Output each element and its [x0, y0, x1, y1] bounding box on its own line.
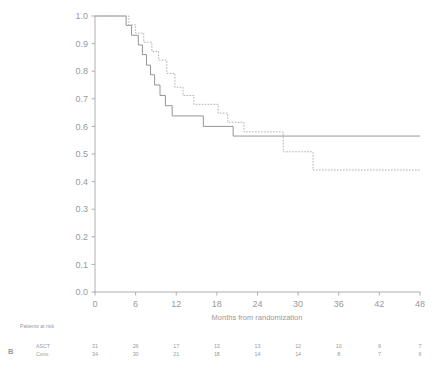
risk-count: 12: [295, 343, 301, 349]
risk-count: 9: [378, 343, 381, 349]
risk-count: 14: [295, 351, 301, 357]
risk-count: 21: [173, 351, 179, 357]
x-tick-label: 0: [92, 299, 97, 309]
y-tick-label: 0.6: [75, 122, 88, 132]
survival-curve-conv: [95, 16, 420, 170]
x-axis-title: Months from randomization: [212, 313, 303, 322]
y-tick-label: 1.0: [75, 11, 88, 21]
x-axis-ticks: [95, 292, 420, 296]
x-tick-label: 36: [334, 299, 344, 309]
risk-count: 26: [133, 343, 139, 349]
x-tick-label: 18: [212, 299, 222, 309]
x-tick-label: 48: [415, 299, 425, 309]
risk-count: 13: [255, 343, 261, 349]
risk-count: 14: [255, 351, 261, 357]
y-tick-label: 0.1: [75, 260, 88, 270]
risk-count: 10: [336, 343, 342, 349]
x-tick-label: 12: [171, 299, 181, 309]
risk-row-label: Conv.: [36, 351, 49, 357]
y-axis-ticks: [92, 16, 96, 292]
risk-count: 7: [378, 351, 381, 357]
y-tick-label: 0.0: [75, 287, 88, 297]
y-tick-label: 0.7: [75, 94, 88, 104]
y-axis-tick-labels: 0.00.10.20.30.40.50.60.70.80.91.0: [75, 11, 88, 297]
y-tick-label: 0.9: [75, 39, 88, 49]
x-tick-label: 30: [293, 299, 303, 309]
x-tick-label: 24: [252, 299, 262, 309]
x-axis-tick-labels: 0612182430364248: [92, 299, 425, 309]
survival-curves: [95, 16, 420, 170]
risk-count: 13: [214, 343, 220, 349]
y-tick-label: 0.8: [75, 66, 88, 76]
x-tick-label: 6: [133, 299, 138, 309]
y-tick-label: 0.2: [75, 232, 88, 242]
x-axis: 0612182430364248: [92, 292, 425, 309]
survival-curve-figure: 0.00.10.20.30.40.50.60.70.80.91.0 061218…: [0, 0, 440, 372]
risk-count: 18: [214, 351, 220, 357]
risk-count: 17: [173, 343, 179, 349]
risk-count: 7: [419, 343, 422, 349]
risk-row-label: ASCT: [36, 343, 51, 349]
y-tick-label: 0.5: [75, 149, 88, 159]
y-axis: 0.00.10.20.30.40.50.60.70.80.91.0: [75, 11, 95, 297]
y-tick-label: 0.3: [75, 204, 88, 214]
risk-count: 34: [92, 351, 98, 357]
risk-count: 31: [92, 343, 98, 349]
kaplan-meier-chart: 0.00.10.20.30.40.50.60.70.80.91.0 061218…: [0, 0, 440, 372]
y-tick-label: 0.4: [75, 177, 88, 187]
risk-table-header: Patients at risk: [20, 323, 54, 329]
risk-count: 8: [337, 351, 340, 357]
risk-count: 30: [133, 351, 139, 357]
risk-count: 6: [419, 351, 422, 357]
x-tick-label: 42: [374, 299, 384, 309]
risk-table: ASCT3126171313121097Conv.343021181414876: [36, 343, 422, 357]
panel-letter: B: [8, 347, 13, 356]
